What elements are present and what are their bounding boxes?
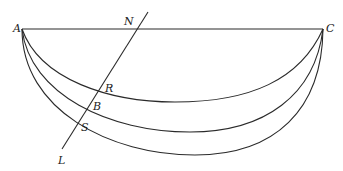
middle-curve [22, 29, 323, 132]
label-l: L [57, 154, 65, 167]
diagram-canvas: A C N R B S L [0, 0, 343, 171]
inner-curve [22, 29, 323, 102]
label-a: A [12, 22, 21, 35]
label-c: C [326, 22, 335, 35]
label-n: N [123, 15, 134, 28]
label-r: R [104, 82, 113, 95]
outer-curve [22, 29, 323, 155]
label-s: S [81, 121, 89, 134]
transversal-line [62, 12, 148, 149]
label-b: B [92, 100, 101, 113]
